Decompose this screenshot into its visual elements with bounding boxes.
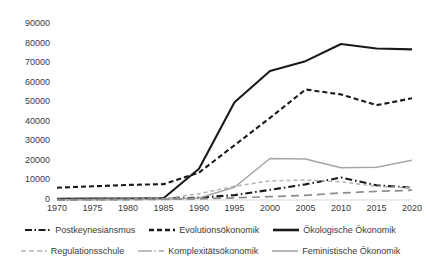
y-axis-tick-30000: 30000	[6, 135, 50, 145]
legend-item-regulationsschule[interactable]: Regulationsschule	[21, 246, 125, 256]
y-axis-tick-50000: 50000	[6, 96, 50, 106]
legend-row-0: PostkeynesiansmusEvolutionsökonomikÖkolo…	[0, 219, 421, 240]
x-axis-tick-1980: 1980	[110, 203, 146, 213]
x-axis-tick-2000: 2000	[252, 203, 288, 213]
legend-label: Evolutionsökonomik	[179, 225, 259, 235]
x-axis-tick-1985: 1985	[146, 203, 182, 213]
x-axis-tick-1970: 1970	[39, 203, 75, 213]
legend-item--kologische-konomik[interactable]: Ökologische Ökonomik	[273, 225, 396, 235]
series-line-2	[57, 44, 412, 199]
legend-item-evolutions-konomik[interactable]: Evolutionsökonomik	[149, 225, 259, 235]
legend-item-komplexit-ts-konomik[interactable]: Komplexitätsökonomik	[138, 246, 258, 256]
legend-label: Postkeynesiansmus	[55, 225, 135, 235]
y-axis-tick-90000: 90000	[6, 18, 50, 28]
y-axis-tick-80000: 80000	[6, 38, 50, 48]
dashed-swatch	[149, 225, 175, 235]
y-axis-tick-40000: 40000	[6, 116, 50, 126]
long-dash-grey-swatch	[272, 246, 298, 256]
solid-swatch	[273, 225, 299, 235]
y-axis-tick-60000: 60000	[6, 77, 50, 87]
chart-legend: PostkeynesiansmusEvolutionsökonomikÖkolo…	[0, 219, 421, 264]
dashed-light-swatch	[21, 246, 47, 256]
solid-dot-grey-swatch	[138, 246, 164, 256]
dash-dot-swatch	[25, 225, 51, 235]
series-line-4	[57, 159, 412, 200]
legend-label: Komplexitätsökonomik	[168, 246, 258, 256]
x-axis-tick-2015: 2015	[359, 203, 395, 213]
x-axis-tick-2010: 2010	[323, 203, 359, 213]
x-axis-tick-1990: 1990	[181, 203, 217, 213]
legend-row-1: RegulationsschuleKomplexitätsökonomikFem…	[0, 240, 421, 261]
y-axis-tick-10000: 10000	[6, 174, 50, 184]
x-axis-tick-2020: 2020	[394, 203, 427, 213]
y-axis-tick-70000: 70000	[6, 57, 50, 67]
legend-label: Regulationsschule	[51, 246, 125, 256]
x-axis-tick-2005: 2005	[288, 203, 324, 213]
legend-item-postkeynesiansmus[interactable]: Postkeynesiansmus	[25, 225, 135, 235]
legend-label: Ökologische Ökonomik	[303, 225, 396, 235]
series-line-0	[57, 178, 412, 200]
series-line-3	[57, 180, 412, 200]
x-axis-tick-1975: 1975	[75, 203, 111, 213]
legend-label: Feministische Ökonomik	[302, 246, 400, 256]
x-axis-tick-1995: 1995	[217, 203, 253, 213]
y-axis-tick-20000: 20000	[6, 155, 50, 165]
legend-item-feministische-konomik[interactable]: Feministische Ökonomik	[272, 246, 400, 256]
